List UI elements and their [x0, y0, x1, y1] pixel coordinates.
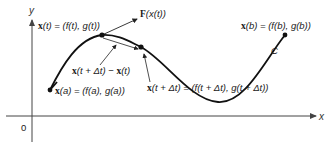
origin-label: 0	[21, 122, 26, 133]
label-x-t: x(t) = (f(t), g(t))	[38, 20, 100, 31]
parametric-curve-diagram: y x 0 x(t) = (f(t), g(t)) F(x(t)) x(b) =…	[0, 0, 326, 150]
point-x-t-dt	[138, 44, 143, 49]
point-x-b	[283, 33, 288, 38]
x-axis-label: x	[318, 111, 325, 122]
label-x-t-dt: x(t + Δt) = (f(t + Δt), g(t + Δt))	[147, 82, 269, 93]
label-x-a: x(a) = (f(a), g(a))	[55, 85, 125, 96]
label-diff: x(t + Δt) − x(t)	[72, 65, 130, 76]
tangent-vector-f	[102, 19, 137, 35]
label-curve-c: C	[271, 45, 278, 56]
xtdt-pointer	[144, 54, 150, 82]
point-x-a	[48, 88, 53, 93]
diff-pointer	[100, 45, 116, 65]
label-F-x-t: F(x(t))	[140, 8, 166, 19]
label-x-b: x(b) = (f(b), g(b))	[241, 20, 311, 31]
point-x-t	[99, 32, 104, 37]
y-axis-label: y	[28, 5, 35, 16]
